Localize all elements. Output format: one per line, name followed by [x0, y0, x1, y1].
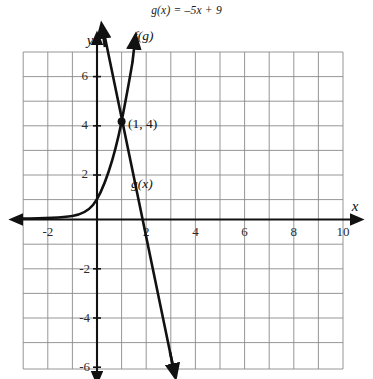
x-tick-4: 4 [192, 224, 199, 239]
x-tick-labels: -2 2 4 6 8 10 [42, 224, 349, 239]
y-tick-6: 6 [82, 68, 89, 83]
grid-lines [23, 52, 343, 369]
y-tick-2: 2 [82, 166, 89, 181]
line-gx [103, 36, 173, 366]
exponential-curve [21, 47, 134, 219]
line-gx-label: g(x) [131, 176, 153, 191]
y-axis-label: y [85, 32, 94, 48]
y-tick-4: 4 [82, 117, 89, 132]
intersection-point-label: (1, 4) [128, 116, 157, 131]
intersection-point [118, 117, 126, 125]
graph-figure: g(x) = –5x + 9 [0, 0, 373, 379]
axis-lines [21, 43, 352, 373]
exponential-curve-label: f(g) [134, 28, 154, 43]
x-tick-10: 10 [337, 224, 350, 239]
y-tick--4: -4 [79, 310, 90, 325]
x-tick-6: 6 [241, 224, 248, 239]
x-tick-8: 8 [291, 224, 298, 239]
x-axis-label: x [351, 198, 359, 214]
x-tick--2: -2 [42, 224, 53, 239]
coordinate-plane: x y -2 2 4 6 8 10 6 4 2 -2 -4 -6 [0, 0, 373, 379]
y-tick--6: -6 [79, 359, 90, 374]
y-tick--2: -2 [79, 261, 90, 276]
y-tick-labels: 6 4 2 -2 -4 -6 [79, 68, 90, 374]
